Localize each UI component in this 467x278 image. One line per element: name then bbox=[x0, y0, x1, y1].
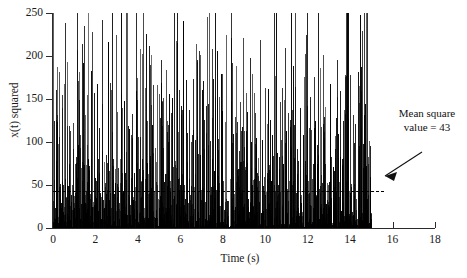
y-tick bbox=[46, 185, 52, 186]
y-tick bbox=[46, 142, 52, 143]
x-tick-label: 16 bbox=[378, 234, 408, 246]
x-axis-title: Time (s) bbox=[185, 252, 295, 264]
y-tick bbox=[46, 56, 52, 57]
x-tick-label: 0 bbox=[38, 234, 68, 246]
x-tick-label: 4 bbox=[123, 234, 153, 246]
mean-square-figure: 050100150200250 x(t) squared 02468101214… bbox=[0, 0, 467, 278]
mean-square-line bbox=[53, 191, 384, 192]
y-tick bbox=[46, 13, 52, 14]
x-tick-label: 6 bbox=[165, 234, 195, 246]
y-tick-label: 50 bbox=[3, 179, 43, 191]
annotation-arrow-icon bbox=[372, 150, 424, 184]
plot-area bbox=[53, 13, 435, 228]
y-tick-label: 250 bbox=[3, 7, 43, 19]
x-axis-line bbox=[52, 228, 435, 229]
annotation-line-1: Mean square bbox=[386, 107, 467, 121]
mean-square-annotation: Mean square value = 43 bbox=[386, 107, 467, 134]
x-tick-label: 10 bbox=[250, 234, 280, 246]
x-tick-label: 2 bbox=[80, 234, 110, 246]
x-tick-label: 18 bbox=[420, 234, 450, 246]
annotation-line-2: value = 43 bbox=[386, 121, 467, 135]
x-tick-label: 8 bbox=[208, 234, 238, 246]
y-tick bbox=[46, 99, 52, 100]
x-tick bbox=[435, 222, 436, 228]
x-tick-label: 14 bbox=[335, 234, 365, 246]
y-tick-label: 0 bbox=[3, 222, 43, 234]
signal-spikes bbox=[53, 13, 435, 228]
x-tick-label: 12 bbox=[293, 234, 323, 246]
y-axis-title: x(t) squared bbox=[8, 60, 20, 160]
